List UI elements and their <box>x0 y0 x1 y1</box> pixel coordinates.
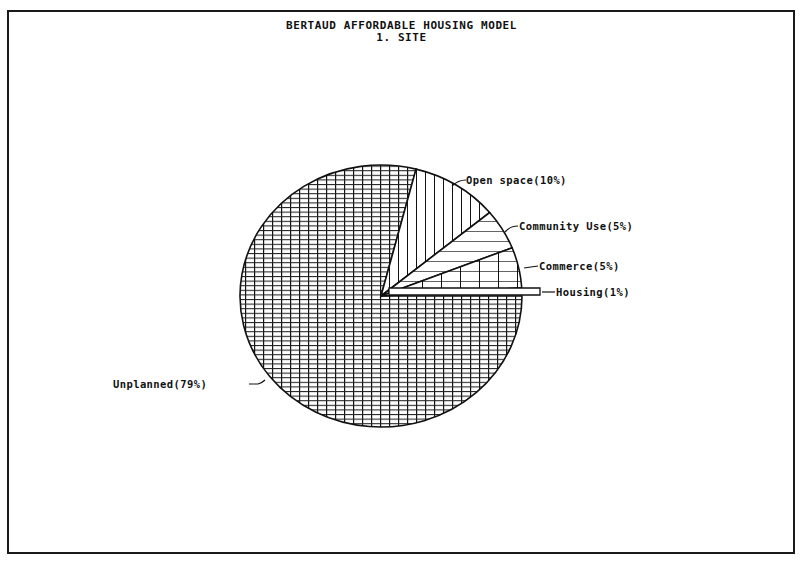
label-housing: Housing(1%) <box>556 286 630 298</box>
leader-line-commerce <box>524 266 538 268</box>
leader-line-unplanned <box>249 380 265 384</box>
pie-slice-housing <box>389 288 540 295</box>
label-commerce: Commerce(5%) <box>539 260 620 272</box>
pie-chart: Open space(10%) Community Use(5%) Commer… <box>0 0 803 562</box>
label-community-use: Community Use(5%) <box>519 220 633 232</box>
label-open-space: Open space(10%) <box>466 174 567 186</box>
pie-slices <box>240 165 540 427</box>
label-unplanned: Unplanned(79%) <box>113 378 207 390</box>
leader-line-community-use <box>505 226 518 232</box>
